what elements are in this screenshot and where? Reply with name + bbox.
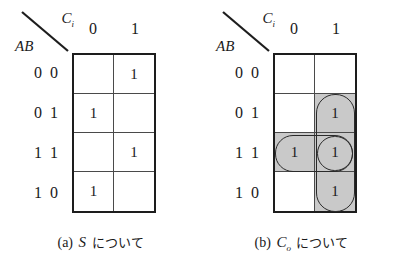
- row-labels-s: 0 0 0 1 1 1 1 0: [24, 53, 70, 213]
- column-header-0: 0: [273, 20, 315, 38]
- kmap-cell: [315, 55, 355, 94]
- kmap-cell: 1: [74, 172, 114, 211]
- kmap-figure: Ci AB 0 1 0 0 0 1 1 1 1 0 1 1 1 1 (a) S …: [0, 0, 403, 269]
- kmap-cell: 1: [275, 133, 315, 172]
- kmap-panel-s: Ci AB 0 1 0 0 0 1 1 1 1 0 1 1 1 1 (a) S …: [0, 0, 201, 269]
- row-label-10: 1 0: [225, 173, 271, 213]
- kmap-cell: 1: [74, 94, 114, 133]
- kmap-grid-s: 1 1 1 1: [72, 53, 156, 213]
- header-corner-s: Ci AB: [18, 8, 72, 53]
- column-headers-s: 0 1: [72, 20, 156, 38]
- kmap-cell: [74, 55, 114, 94]
- row-label-11: 1 1: [24, 133, 70, 173]
- row-label-00: 0 0: [225, 53, 271, 93]
- caption-tag: (b): [255, 235, 271, 250]
- kmap-cell: [275, 55, 315, 94]
- row-label-01: 0 1: [24, 93, 70, 133]
- kmap-cell: [114, 172, 154, 211]
- kmap-panel-co: Ci AB 0 1 0 0 0 1 1 1 1 0 1 1 1 1 (b) Co: [201, 0, 402, 269]
- kmap-cell: [114, 94, 154, 133]
- caption-tag: (a): [57, 235, 73, 250]
- kmap-cell: 1: [315, 94, 355, 133]
- row-label-10: 1 0: [24, 173, 70, 213]
- kmap-cell: 1: [315, 172, 355, 211]
- column-header-1: 1: [315, 20, 357, 38]
- row-label-00: 0 0: [24, 53, 70, 93]
- kmap-cell: [275, 172, 315, 211]
- kmap-cell: 1: [114, 133, 154, 172]
- caption-variable: Co: [274, 234, 293, 250]
- caption-text: について: [296, 235, 348, 250]
- column-header-1: 1: [114, 20, 156, 38]
- caption-variable: S: [77, 234, 89, 250]
- caption-text: について: [92, 235, 144, 250]
- row-label-01: 0 1: [225, 93, 271, 133]
- kmap-cell: [275, 94, 315, 133]
- row-labels-co: 0 0 0 1 1 1 1 0: [225, 53, 271, 213]
- column-headers-co: 0 1: [273, 20, 357, 38]
- kmap-cell: 1: [114, 55, 154, 94]
- column-header-0: 0: [72, 20, 114, 38]
- caption-s: (a) S について: [0, 232, 201, 251]
- kmap-grid-co: 1 1 1 1: [273, 53, 357, 213]
- caption-co: (b) Co について: [201, 232, 402, 253]
- header-corner-co: Ci AB: [219, 8, 273, 53]
- kmap-cell: [74, 133, 114, 172]
- row-label-11: 1 1: [225, 133, 271, 173]
- kmap-cell: 1: [315, 133, 355, 172]
